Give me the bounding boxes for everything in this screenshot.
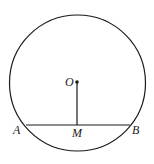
label-O: O [65, 75, 74, 89]
label-M: M [71, 126, 83, 140]
label-B: B [132, 123, 140, 137]
geometry-diagram: O A M B [0, 0, 154, 164]
label-A: A [12, 123, 21, 137]
center-point-O [75, 80, 79, 84]
